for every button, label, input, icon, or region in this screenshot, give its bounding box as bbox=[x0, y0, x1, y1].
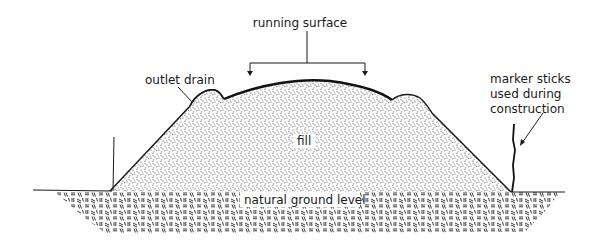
marker-stick-left bbox=[113, 137, 114, 191]
marker-sticks-label: marker sticks used during construction bbox=[490, 72, 595, 117]
running-surface-label: running surface bbox=[250, 16, 350, 30]
arrowhead-right bbox=[362, 71, 368, 76]
marker-sticks-line-1: marker sticks bbox=[490, 72, 595, 87]
marker-leader bbox=[522, 113, 543, 143]
outlet-drain-label: outlet drain bbox=[145, 73, 215, 87]
embankment-diagram bbox=[0, 0, 595, 248]
marker-sticks-line-3: construction bbox=[490, 102, 595, 117]
natural-ground-level-label: natural ground level bbox=[244, 193, 366, 207]
marker-stick-right bbox=[512, 124, 515, 192]
running-surface-bracket bbox=[250, 31, 365, 74]
fill-label: fill bbox=[293, 134, 315, 148]
arrowhead-left bbox=[247, 71, 253, 76]
outlet-drain-leader bbox=[178, 87, 193, 103]
marker-sticks-line-2: used during bbox=[490, 87, 595, 102]
ground-line-left bbox=[33, 190, 112, 191]
